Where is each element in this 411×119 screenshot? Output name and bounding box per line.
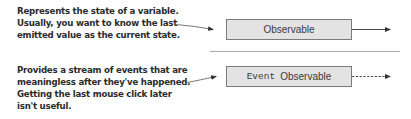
state-observable-description: Represents the state of a variable. Usua… [17, 5, 180, 41]
event-code-label: Event [247, 71, 276, 82]
section-divider [210, 51, 400, 52]
annotation-line: isn't useful. [17, 100, 190, 112]
pointer-arrow-icon [176, 25, 213, 30]
event-observable-box: Event Observable [226, 66, 352, 87]
annotation-line: meaningless after they've happened. [17, 76, 190, 88]
annotation-line: Getting the last mouse click later [17, 88, 190, 100]
annotation-line: Provides a stream of events that are [17, 64, 190, 76]
observable-box: Observable [226, 19, 352, 40]
observable-label: Observable [263, 24, 314, 35]
annotation-line: emitted value as the current state. [17, 29, 180, 41]
event-observable-description: Provides a stream of events that are mea… [17, 64, 190, 112]
annotation-line: Usually, you want to know the last [17, 17, 180, 29]
annotation-line: Represents the state of a variable. [17, 5, 180, 17]
observable-label: Observable [280, 71, 331, 82]
